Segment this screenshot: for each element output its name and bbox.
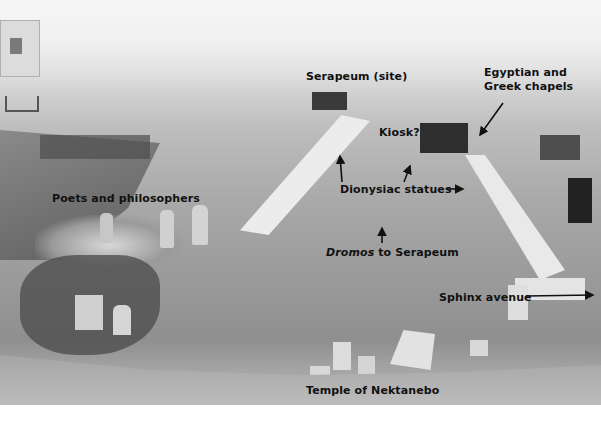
- label-chapels-line1: Egyptian and: [484, 66, 567, 79]
- label-dromos: Dromos to Serapeum: [326, 246, 459, 259]
- arrow-chapels: [480, 103, 503, 135]
- arrow-dionysiac-center: [404, 166, 410, 182]
- label-temple-nektanebo: Temple of Nektanebo: [306, 384, 439, 397]
- arrow-sphinx: [526, 295, 593, 296]
- label-sphinx-avenue: Sphinx avenue: [439, 291, 532, 304]
- label-chapels-line2: Greek chapels: [484, 80, 573, 93]
- arrow-dionysiac-left: [340, 156, 342, 182]
- label-serapeum-site: Serapeum (site): [306, 70, 407, 83]
- excavation-photo: Serapeum (site) Egyptian and Greek chape…: [0, 0, 601, 405]
- label-kiosk: Kiosk?: [379, 126, 420, 139]
- label-dionysiac-statues: Dionysiac statues: [340, 183, 452, 196]
- label-dromos-italic: Dromos: [326, 246, 374, 259]
- label-dromos-rest: to Serapeum: [374, 246, 459, 259]
- label-poets-philosophers: Poets and philosophers: [52, 192, 200, 205]
